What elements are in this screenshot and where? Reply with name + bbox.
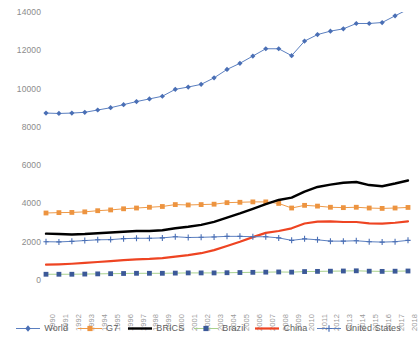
y-axis-tick-label: 0 — [3, 276, 41, 285]
legend-item-g7[interactable]: G7 — [77, 323, 118, 334]
legend-item-united-states[interactable]: United States — [316, 323, 400, 334]
y-axis-tick-label: 12000 — [3, 46, 41, 55]
legend-swatch-china-icon — [254, 323, 280, 334]
y-axis-tick-label: 10000 — [3, 84, 41, 93]
y-axis: 02000400060008000100001200014000 — [0, 0, 41, 342]
legend-item-brics[interactable]: BRICS — [127, 323, 184, 334]
plot-svg — [41, 12, 413, 280]
series-g7 — [44, 199, 411, 215]
chart-legend: WorldG7BRICSBrazilChinaUnited States — [0, 318, 416, 338]
legend-swatch-united-states-icon — [316, 323, 342, 334]
y-axis-tick-label: 6000 — [3, 161, 41, 170]
y-axis-tick-label: 14000 — [3, 8, 41, 17]
legend-swatch-brazil-icon — [193, 323, 219, 334]
series-brazil — [44, 268, 411, 276]
legend-item-brazil[interactable]: Brazil — [193, 323, 245, 334]
legend-swatch-world-icon — [15, 323, 41, 334]
x-axis: 1990199119921993199419951996199719981999… — [41, 282, 413, 316]
legend-label: World — [44, 324, 68, 333]
y-axis-tick-label: 4000 — [3, 199, 41, 208]
y-axis-tick-label: 2000 — [3, 237, 41, 246]
legend-swatch-brics-icon — [127, 323, 153, 334]
legend-label: BRICS — [156, 324, 184, 333]
series-world — [43, 12, 410, 116]
legend-label: United States — [345, 324, 400, 333]
plot-area — [41, 12, 413, 280]
legend-label: China — [283, 324, 307, 333]
series-united-states — [43, 233, 410, 245]
legend-label: Brazil — [222, 324, 245, 333]
legend-label: G7 — [106, 324, 118, 333]
series-china — [46, 221, 408, 264]
legend-item-china[interactable]: China — [254, 323, 307, 334]
y-axis-tick-label: 8000 — [3, 123, 41, 132]
legend-item-world[interactable]: World — [15, 323, 68, 334]
legend-swatch-g7-icon — [77, 323, 103, 334]
